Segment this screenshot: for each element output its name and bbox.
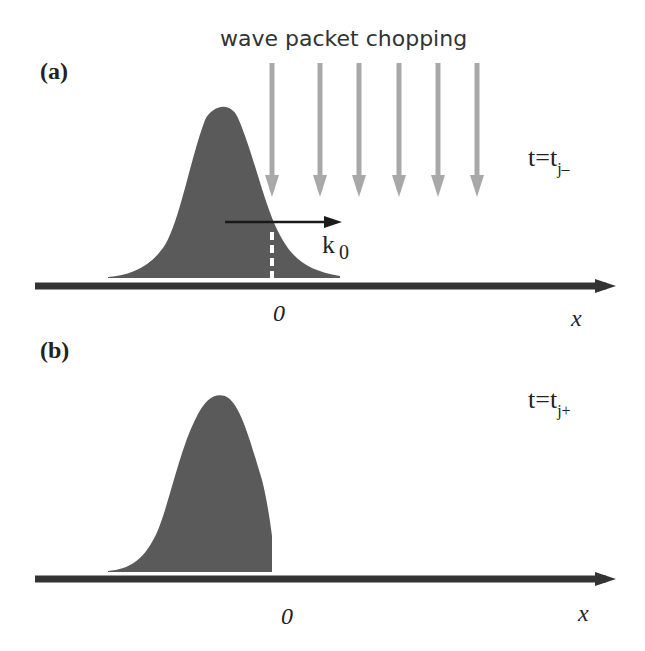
diagram-title: wave packet chopping <box>220 26 467 51</box>
chop-arrow-icon <box>313 63 327 197</box>
axis-arrowhead-icon <box>595 572 616 586</box>
momentum-label-subscript: 0 <box>339 241 349 263</box>
wave-packet-diagram <box>0 0 645 651</box>
chop-arrow-icon <box>470 63 484 197</box>
momentum-label: k0 <box>322 230 349 264</box>
panel-label-a: (a) <box>40 58 68 85</box>
chop-arrow-icon <box>431 63 445 197</box>
time-label-subscript: j– <box>557 160 569 177</box>
time-label-subscript: j+ <box>557 402 570 419</box>
chop-arrow-icon <box>392 63 406 197</box>
chop-arrow-icon <box>265 63 279 197</box>
axis-arrowhead-icon <box>595 279 616 293</box>
wave-packet-b <box>108 395 272 572</box>
wave-packet-a <box>108 107 340 278</box>
time-label-base: t=t <box>528 385 557 414</box>
axis-label-a: x <box>571 305 582 332</box>
axis-label-b: x <box>578 600 589 627</box>
momentum-label-base: k <box>322 230 335 259</box>
origin-label-b: 0 <box>281 603 293 630</box>
time-label-base: t=t <box>528 143 557 172</box>
chop-arrow-icon <box>352 63 366 197</box>
time-label-b: t=tj+ <box>528 385 571 420</box>
chop-arrows <box>265 63 484 197</box>
origin-label-a: 0 <box>273 300 285 327</box>
time-label-a: t=tj– <box>528 143 570 178</box>
panel-label-b: (b) <box>40 337 69 364</box>
